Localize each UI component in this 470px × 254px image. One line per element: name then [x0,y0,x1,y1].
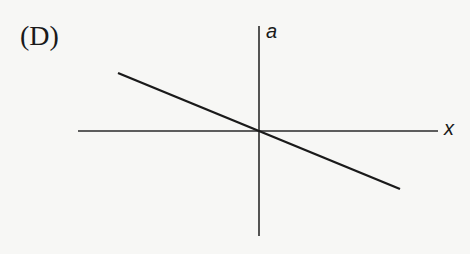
axes-diagram [0,0,470,254]
x-axis-label: x [444,117,454,140]
y-axis-label: a [266,20,277,43]
